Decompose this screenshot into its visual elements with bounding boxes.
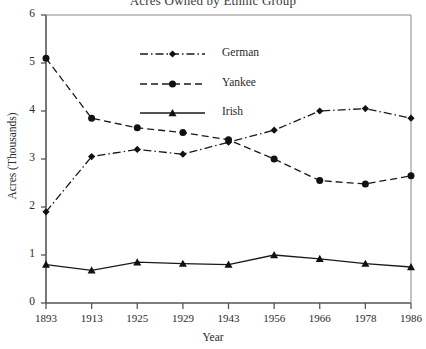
data-point-irish: [42, 261, 50, 268]
data-point-german: [179, 151, 186, 158]
data-point-yankee: [88, 115, 95, 122]
x-tick-label: 1986: [388, 312, 426, 324]
data-point-german: [271, 127, 278, 134]
x-tick-label: 1966: [297, 312, 343, 324]
y-tick-label: 3: [9, 151, 35, 163]
y-tick-label: 1: [9, 247, 35, 259]
chart-container: Acres Owned by Ethnic Group Acres (Thous…: [0, 0, 426, 349]
data-point-yankee: [362, 180, 369, 187]
data-point-yankee: [43, 55, 50, 62]
y-tick-label: 5: [9, 55, 35, 67]
data-point-german: [407, 115, 414, 122]
x-tick-label: 1956: [251, 312, 297, 324]
y-tick-label: 6: [9, 7, 35, 19]
y-tick-label: 2: [9, 199, 35, 211]
legend-marker-yankee: [169, 81, 176, 88]
data-point-yankee: [179, 129, 186, 136]
data-point-yankee: [271, 156, 278, 163]
x-tick-label: 1943: [206, 312, 252, 324]
y-tick-label: 4: [9, 103, 35, 115]
data-point-yankee: [225, 136, 232, 143]
data-point-german: [316, 107, 323, 114]
plot-area: [0, 0, 426, 349]
y-tick-label: 0: [9, 295, 35, 307]
x-tick-label: 1929: [160, 312, 206, 324]
x-tick-label: 1925: [114, 312, 160, 324]
data-point-yankee: [408, 172, 415, 179]
data-point-yankee: [134, 124, 141, 131]
legend-label-irish: Irish: [222, 105, 243, 117]
x-tick-label: 1893: [23, 312, 69, 324]
legend-label-german: German: [222, 46, 259, 58]
data-point-german: [134, 146, 141, 153]
data-point-yankee: [316, 177, 323, 184]
data-point-german: [362, 105, 369, 112]
series-line-german: [46, 109, 411, 212]
legend-marker-german: [169, 50, 176, 57]
legend-label-yankee: Yankee: [222, 76, 256, 88]
x-tick-label: 1913: [69, 312, 115, 324]
x-tick-label: 1978: [342, 312, 388, 324]
